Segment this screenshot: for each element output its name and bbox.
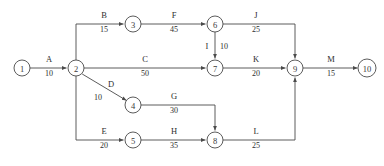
- activity-label-E: E: [101, 126, 106, 136]
- activity-duration-A: 10: [45, 69, 53, 78]
- activity-label-C: C: [142, 54, 148, 64]
- node-label-1: 1: [20, 64, 24, 74]
- activity-duration-J: 25: [252, 25, 260, 34]
- node-label-7: 7: [213, 64, 217, 74]
- node-label-10: 10: [363, 64, 372, 74]
- activity-label-I: I: [206, 41, 209, 51]
- node-label-8: 8: [213, 136, 217, 146]
- edge-L: [223, 78, 295, 141]
- activity-label-G: G: [171, 91, 177, 101]
- nodes-group: 1 2 3 4 5 6 7 8 9 10: [14, 16, 376, 148]
- activity-label-L: L: [253, 126, 258, 136]
- edge-D: [82, 74, 126, 101]
- activity-duration-B: 15: [100, 25, 108, 34]
- activity-duration-H: 35: [170, 141, 178, 150]
- edge-G: [141, 105, 215, 131]
- edge-E: [76, 76, 124, 140]
- activity-duration-F: 45: [170, 25, 178, 34]
- activity-duration-G: 30: [170, 106, 178, 115]
- node-label-3: 3: [131, 20, 135, 30]
- activity-label-J: J: [254, 10, 258, 20]
- activity-label-F: F: [172, 10, 177, 20]
- activity-label-K: K: [253, 54, 260, 64]
- activity-duration-I: 10: [220, 42, 228, 51]
- activity-label-B: B: [101, 10, 107, 20]
- activity-duration-D: 10: [94, 93, 102, 102]
- activity-label-M: M: [327, 54, 335, 64]
- network-diagram: 1 2 3 4 5 6 7 8 9 10 A 10 B 15 C 50 D 10…: [0, 0, 384, 166]
- activity-duration-L: 25: [252, 141, 260, 150]
- node-label-2: 2: [74, 64, 78, 74]
- node-label-9: 9: [293, 64, 297, 74]
- activity-duration-E: 20: [100, 141, 108, 150]
- activity-label-H: H: [171, 126, 177, 136]
- activity-label-A: A: [46, 54, 53, 64]
- node-label-6: 6: [213, 20, 217, 30]
- activity-duration-M: 15: [327, 69, 335, 78]
- network-diagram-canvas: 1 2 3 4 5 6 7 8 9 10 A 10 B 15 C 50 D 10…: [0, 0, 384, 166]
- edges-group: [30, 24, 358, 140]
- node-label-5: 5: [131, 136, 135, 146]
- activity-label-D: D: [108, 79, 114, 89]
- activity-labels-group: A 10 B 15 C 50 D 10 E 20 F 45 G 30 H 35 …: [45, 10, 335, 150]
- activity-duration-C: 50: [141, 69, 149, 78]
- activity-duration-K: 20: [252, 69, 260, 78]
